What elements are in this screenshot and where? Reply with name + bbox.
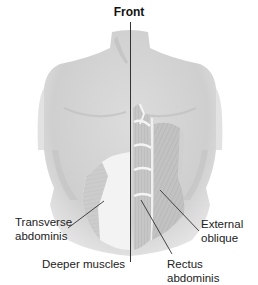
label-rectus-abdominis: Rectus abdominis <box>167 257 258 285</box>
rectus-abdominis-muscle <box>133 104 152 250</box>
label-transverse-line1: Transverse <box>15 215 72 229</box>
label-external-oblique: External oblique <box>201 217 243 245</box>
label-transverse-abdominis: Transverse abdominis <box>15 215 72 243</box>
label-deeper-muscles: Deeper muscles <box>42 257 125 271</box>
label-external-line2: oblique <box>201 231 243 245</box>
label-external-line1: External <box>201 217 243 231</box>
label-transverse-line2: abdominis <box>15 229 72 243</box>
